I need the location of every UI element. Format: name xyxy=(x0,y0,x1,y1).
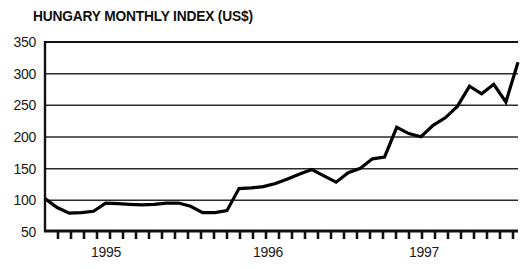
x-tick-label: 1996 xyxy=(253,244,283,260)
chart-page: HUNGARY MONTHLY INDEX (US$) 350 300 250 … xyxy=(0,0,532,269)
x-tick-label: 1995 xyxy=(91,244,121,260)
x-tick-label: 1997 xyxy=(409,244,439,260)
x-axis-labels: 1995 1996 1997 xyxy=(0,0,532,269)
